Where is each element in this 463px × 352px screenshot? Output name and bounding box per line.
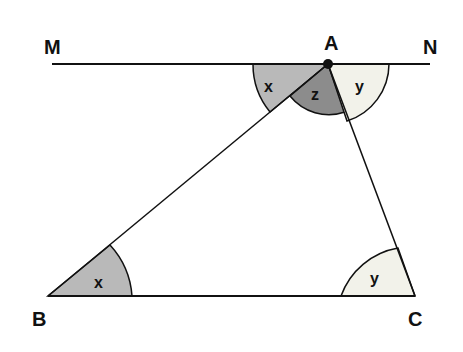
angle-label-y-at-c: y [370,270,379,287]
label-n: N [423,36,437,58]
label-a: A [324,32,338,54]
angle-label-x-at-a: x [264,78,273,95]
side-ab [48,64,328,296]
geometry-diagram: M A N B C x z y x y [0,0,463,352]
label-c: C [408,308,422,330]
angle-label-x-at-b: x [94,274,103,291]
angle-label-z-at-a: z [311,86,319,103]
label-m: M [44,36,61,58]
label-b: B [32,308,46,330]
point-a-dot [323,59,333,69]
angle-label-y-at-a: y [355,78,364,95]
angle-x-at-b [48,245,132,296]
